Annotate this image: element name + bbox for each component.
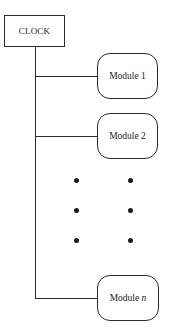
module-1-box: Module 1 <box>97 53 158 99</box>
branch-line-module-n <box>35 298 97 299</box>
module-1-label-index: 1 <box>141 71 146 81</box>
ellipsis-dot <box>74 208 79 213</box>
clock-bus-vertical-line <box>35 46 36 299</box>
ellipsis-dot <box>128 238 133 243</box>
module-n-box: Module n <box>97 275 159 321</box>
clock-label: CLOCK <box>19 26 51 36</box>
branch-line-module-2 <box>35 136 97 137</box>
module-2-label-prefix: Module <box>109 131 139 141</box>
module-1-label-prefix: Module <box>109 71 139 81</box>
ellipsis-dot <box>74 178 79 183</box>
module-n-label-index: n <box>142 293 147 303</box>
ellipsis-dot <box>74 238 79 243</box>
module-2-label-index: 2 <box>141 131 146 141</box>
ellipsis-dot <box>128 208 133 213</box>
module-n-label-prefix: Module <box>110 293 140 303</box>
branch-line-module-1 <box>35 76 97 77</box>
clock-box: CLOCK <box>4 15 65 47</box>
ellipsis-dot <box>128 178 133 183</box>
module-2-box: Module 2 <box>97 113 158 159</box>
